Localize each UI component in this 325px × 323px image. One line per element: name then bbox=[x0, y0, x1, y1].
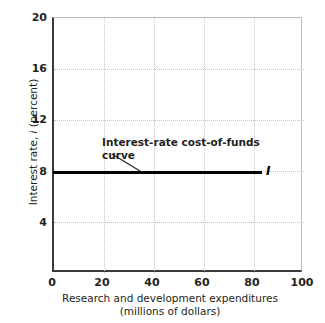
y-axis-title: Interest rate, i (percent) bbox=[27, 57, 39, 227]
x-tick-label-100: 100 bbox=[282, 277, 322, 288]
x-tick-label-20: 20 bbox=[82, 277, 122, 288]
annotation-leader-line bbox=[112, 154, 152, 174]
curve-label-I: I bbox=[266, 165, 270, 177]
y-axis-title-post: (percent) bbox=[27, 79, 39, 131]
x-axis-title-units: (millions of dollars) bbox=[30, 305, 310, 318]
gridline-y-16 bbox=[54, 69, 304, 70]
x-axis-title-main: Research and development expenditures bbox=[30, 292, 310, 305]
x-tick-label-40: 40 bbox=[132, 277, 172, 288]
x-axis-title: Research and development expenditures (m… bbox=[30, 292, 310, 318]
y-axis-title-pre: Interest rate, bbox=[27, 133, 39, 205]
x-tick-label-0: 0 bbox=[32, 277, 72, 288]
gridline-y-12 bbox=[54, 120, 304, 121]
x-tick-label-80: 80 bbox=[232, 277, 272, 288]
y-tick-label-20: 20 bbox=[11, 12, 47, 23]
plot-area: I Interest-rate cost-of-funds curve bbox=[52, 17, 302, 272]
interest-rate-cost-of-funds-curve bbox=[53, 171, 262, 174]
chart-figure: 20 16 12 8 4 0 20 40 60 80 100 I Interes… bbox=[0, 0, 325, 323]
curve-annotation-line1: Interest-rate cost-of-funds bbox=[102, 136, 260, 149]
gridline-y-4 bbox=[54, 222, 304, 223]
x-tick-label-60: 60 bbox=[182, 277, 222, 288]
